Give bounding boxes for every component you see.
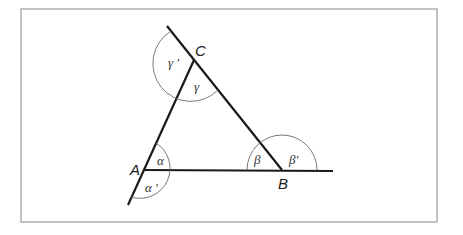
- angle-label-alpha-prime: α ′: [145, 180, 158, 195]
- vertex-label-a: A: [129, 161, 140, 178]
- vertex-label-b: B: [278, 175, 288, 192]
- figure-frame: [21, 9, 437, 222]
- angle-label-alpha: α: [157, 153, 165, 168]
- triangle-angles-diagram: C A B γ ′ γ α α ′ β β′: [0, 0, 463, 235]
- angle-label-beta-prime: β′: [288, 152, 298, 167]
- vertex-label-c: C: [195, 42, 206, 59]
- side-ab-extended: [144, 170, 333, 171]
- angle-label-beta: β: [253, 152, 261, 167]
- angle-label-gamma: γ: [194, 79, 200, 94]
- angle-label-gamma-prime: γ ′: [168, 55, 179, 70]
